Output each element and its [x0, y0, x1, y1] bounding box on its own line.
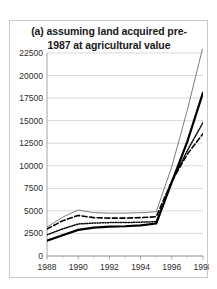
- y-axis-tick-label: 2500: [24, 228, 43, 238]
- x-axis-tick-label: 1988: [38, 262, 57, 272]
- y-axis-tick-label: 10000: [19, 161, 43, 171]
- x-axis-tick-label: 1990: [69, 262, 88, 272]
- series-dashed: [47, 134, 203, 229]
- x-axis-tick-marks: [47, 256, 203, 260]
- chart-figure: (a) assuming land acquired pre- 1987 at …: [9, 20, 208, 278]
- y-axis-tick-label: 5000: [24, 206, 43, 216]
- x-axis-tick-label: 1992: [100, 262, 119, 272]
- y-axis-tick-label: 7500: [24, 183, 43, 193]
- y-axis-tick-label: 17500: [19, 93, 43, 103]
- x-axis-tick-labels: 198819901992199419961998: [38, 262, 209, 272]
- y-axis-tick-label: 20000: [19, 71, 43, 81]
- x-axis-tick-label: 1996: [162, 262, 181, 272]
- x-axis-tick-label: 1994: [131, 262, 150, 272]
- y-axis-tick-label: 15000: [19, 116, 43, 126]
- y-axis-tick-label: 12500: [19, 138, 43, 148]
- x-axis-tick-label: 1998: [194, 262, 209, 272]
- y-axis-tick-labels: 0250050007500100001250015000175002000022…: [19, 48, 43, 261]
- series-thin-solid: [47, 47, 203, 227]
- y-axis-tick-label: 22500: [19, 48, 43, 58]
- line-chart-plot: 0250050007500100001250015000175002000022…: [10, 21, 209, 279]
- y-axis-tick-label: 0: [38, 251, 43, 261]
